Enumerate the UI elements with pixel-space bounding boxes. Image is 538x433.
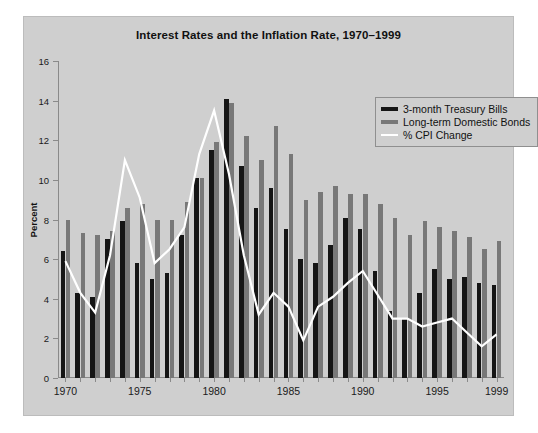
x-tick-label-1995: 1995 [425,385,448,397]
x-tick-mark-1986 [303,378,304,382]
x-tick-mark-1979 [199,378,200,382]
x-tick-mark-1975 [140,378,141,382]
x-tick-label-1980: 1980 [202,385,225,397]
legend-swatch-icon [381,107,398,111]
x-tick-mark-1974 [125,378,126,382]
x-tick-label-1990: 1990 [351,385,374,397]
y-tick-label: 10 [38,174,49,185]
x-tick-mark-1990 [363,378,364,382]
legend-item-0: 3-month Treasury Bills [381,102,530,115]
x-tick-mark-1976 [155,378,156,382]
x-tick-label-1975: 1975 [128,385,151,397]
x-tick-mark-1972 [95,378,96,382]
y-tick-label: 8 [44,214,49,225]
x-tick-mark-1985 [288,378,289,382]
legend-swatch-icon [381,120,398,124]
y-axis-title: Percent [28,202,39,237]
x-tick-mark-1997 [467,378,468,382]
x-tick-mark-1987 [318,378,319,382]
x-tick-mark-1995 [437,378,438,382]
legend-label: 3-month Treasury Bills [403,103,507,115]
x-tick-mark-1998 [482,378,483,382]
y-tick-label: 12 [38,135,49,146]
x-tick-mark-1971 [80,378,81,382]
legend-label: % CPI Change [403,129,472,141]
legend-label: Long-term Domestic Bonds [403,116,530,128]
chart-legend: 3-month Treasury BillsLong-term Domestic… [375,97,538,147]
x-tick-mark-1973 [110,378,111,382]
legend-item-1: Long-term Domestic Bonds [381,115,530,128]
x-tick-mark-1991 [378,378,379,382]
x-tick-mark-1988 [333,378,334,382]
chart-figure: Interest Rates and the Inflation Rate, 1… [23,16,514,416]
x-tick-mark-1999 [497,378,498,382]
x-tick-mark-1981 [229,378,230,382]
x-tick-mark-1970 [65,378,66,382]
x-tick-mark-1980 [214,378,215,382]
y-tick-mark [53,378,58,379]
chart-title: Interest Rates and the Inflation Rate, 1… [24,29,513,41]
x-tick-mark-1993 [407,378,408,382]
y-tick-label: 4 [44,293,49,304]
x-tick-mark-1984 [274,378,275,382]
x-tick-mark-1989 [348,378,349,382]
x-tick-label-1985: 1985 [277,385,300,397]
x-tick-label-1970: 1970 [54,385,77,397]
x-tick-mark-1996 [452,378,453,382]
x-tick-mark-1994 [422,378,423,382]
x-tick-label-1999: 1999 [485,385,508,397]
y-tick-label: 14 [38,95,49,106]
y-tick-label: 6 [44,254,49,265]
x-tick-mark-1983 [259,378,260,382]
legend-swatch-icon [381,134,398,136]
y-tick-label: 0 [44,373,49,384]
x-tick-mark-1982 [244,378,245,382]
x-tick-mark-1992 [393,378,394,382]
x-tick-mark-1977 [170,378,171,382]
legend-item-2: % CPI Change [381,128,530,141]
y-tick-label: 2 [44,333,49,344]
y-tick-label: 16 [38,56,49,67]
x-tick-mark-1978 [184,378,185,382]
